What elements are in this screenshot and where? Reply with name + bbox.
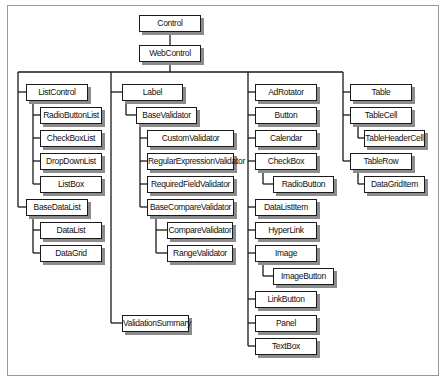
class-node-tablecell: TableCell xyxy=(350,107,412,124)
class-node-datalist: DataList xyxy=(40,222,102,239)
class-node-checkboxlist: CheckBoxList xyxy=(40,130,102,147)
class-node-tablerow: TableRow xyxy=(350,153,412,170)
class-node-dropdownlist: DropDownList xyxy=(40,153,102,170)
class-node-button: Button xyxy=(255,107,317,124)
class-node-regularexpressionvalidator: RegularExpressionValidator xyxy=(147,153,234,170)
class-node-label: Label xyxy=(122,84,183,101)
class-node-basedatalist: BaseDataList xyxy=(26,199,88,216)
class-node-table: Table xyxy=(350,84,412,101)
class-node-calendar: Calendar xyxy=(255,130,317,147)
class-node-customvalidator: CustomValidator xyxy=(147,130,234,147)
class-node-datalistitem: DataListItem xyxy=(255,199,317,216)
class-node-basevalidator: BaseValidator xyxy=(136,107,197,124)
class-node-validationsummary: ValidationSummary xyxy=(122,315,189,332)
class-node-checkbox: CheckBox xyxy=(255,153,317,170)
class-node-comparevalidator: CompareValidator xyxy=(167,222,233,239)
class-node-linkbutton: LinkButton xyxy=(255,291,317,308)
class-node-datagriditem: DataGridItem xyxy=(364,176,425,193)
class-node-radiobuttonlist: RadioButtonList xyxy=(40,107,102,124)
class-node-radiobutton: RadioButton xyxy=(273,176,334,193)
class-node-tableheadercell: TableHeaderCell xyxy=(364,130,425,147)
class-node-listbox: ListBox xyxy=(40,176,102,193)
class-node-control: Control xyxy=(139,15,201,32)
class-node-image: Image xyxy=(255,245,317,262)
class-node-basecomparevalidator: BaseCompareValidator xyxy=(147,199,234,216)
class-node-hyperlink: HyperLink xyxy=(255,222,317,239)
class-node-rangevalidator: RangeValidator xyxy=(167,245,233,262)
class-node-imagebutton: ImageButton xyxy=(273,268,334,285)
class-node-textbox: TextBox xyxy=(255,338,317,355)
class-node-panel: Panel xyxy=(255,315,317,332)
class-node-adrotator: AdRotator xyxy=(255,84,317,101)
class-node-datagrid: DataGrid xyxy=(40,245,102,262)
class-node-listcontrol: ListControl xyxy=(26,84,88,101)
class-node-requiredfieldvalidator: RequiredFieldValidator xyxy=(147,176,234,193)
class-node-webcontrol: WebControl xyxy=(139,45,201,62)
